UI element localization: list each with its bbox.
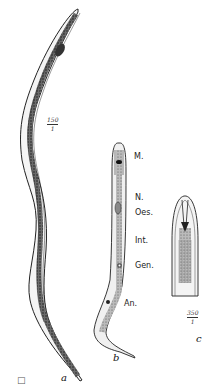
nematode-illustration <box>0 0 216 389</box>
scale-c-denominator: 1 <box>187 318 198 325</box>
scale-a: 150 1 <box>47 117 58 132</box>
label-oesophagus: Oes. <box>135 208 153 217</box>
scale-a-denominator: 1 <box>47 125 58 132</box>
panel-c-head <box>172 196 198 296</box>
label-intestine: Int. <box>135 236 148 245</box>
scale-c-numerator: 350 <box>187 310 198 318</box>
panel-label-b: b <box>113 352 119 363</box>
label-anus: An. <box>124 299 137 308</box>
label-genital: Gen. <box>135 261 154 270</box>
corner-mark: □ <box>17 375 26 385</box>
label-nerve-ring: N. <box>135 193 144 202</box>
panel-label-a: a <box>61 372 67 383</box>
panel-a-worm <box>21 9 83 381</box>
scale-a-numerator: 150 <box>47 117 58 125</box>
figure-plate: 150 1 M. N. Oes. Int. Gen. An. 350 1 a b… <box>0 0 216 389</box>
panel-b-worm <box>94 143 135 358</box>
label-mouth: M. <box>134 152 143 161</box>
panel-label-c: c <box>196 333 202 344</box>
scale-c: 350 1 <box>187 310 198 325</box>
